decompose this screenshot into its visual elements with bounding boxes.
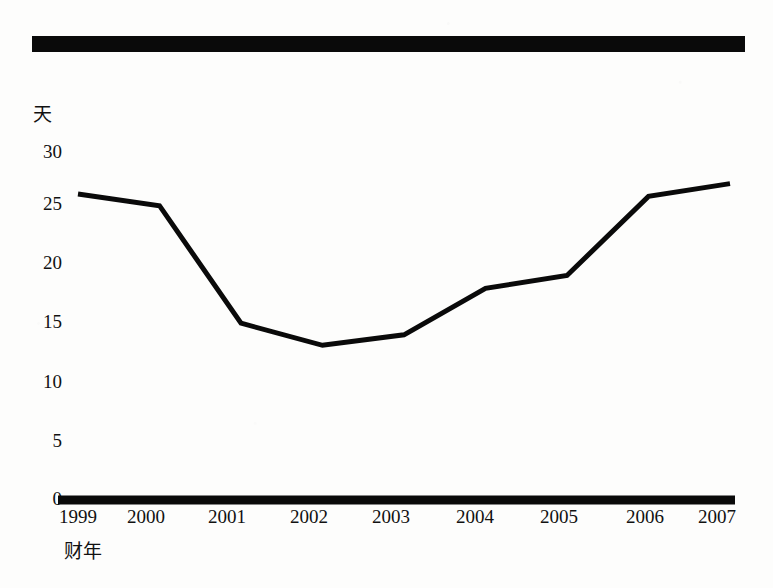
figure-page: 天 30 25 20 15 10 5 0 1999 2000 2001 2002… xyxy=(0,0,773,588)
line-chart-plot xyxy=(0,0,773,588)
data-series-line xyxy=(78,184,730,346)
